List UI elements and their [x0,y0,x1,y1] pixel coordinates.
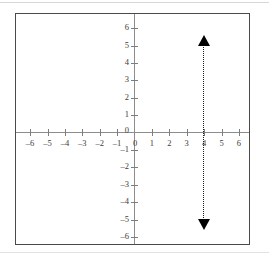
x-axis-tick [48,129,49,136]
y-axis-tick [131,167,138,168]
y-axis-tick [131,150,138,151]
x-axis-tick-label: 6 [231,139,247,148]
x-axis-tick [100,129,101,136]
x-axis-tick [169,129,170,136]
y-axis-tick-label: 3 [113,75,129,84]
y-axis-line [134,14,135,244]
y-axis-tick-label: 2 [113,93,129,102]
y-axis-tick [131,46,138,47]
y-axis-tick-label: 4 [113,58,129,67]
x-axis-tick [222,129,223,136]
x-axis-tick-label: 5 [214,139,230,148]
plotted-line-x-equals-4 [203,45,204,220]
x-axis-tick-label: 3 [179,139,195,148]
x-axis-tick [187,129,188,136]
y-axis-tick-label: –2 [113,162,129,171]
y-axis-tick [131,80,138,81]
x-axis-tick-label: –2 [92,139,108,148]
y-axis-tick-label: –5 [113,215,129,224]
x-axis-tick [82,129,83,136]
x-axis-tick-label: –4 [57,139,73,148]
x-axis-tick-label: –6 [22,139,38,148]
plot-frame-border [15,13,250,245]
arrow-up-icon [198,35,210,46]
x-axis-tick [65,129,66,136]
y-axis-tick [131,220,138,221]
x-axis-tick-label: –3 [74,139,90,148]
y-axis-tick [131,185,138,186]
x-axis-tick-label: 2 [161,139,177,148]
y-axis-tick [131,237,138,238]
arrow-down-icon [198,219,210,230]
y-axis-tick [131,63,138,64]
y-axis-tick-label: 6 [113,23,129,32]
coordinate-plane-figure: –6–5–4–3–2–1123456654321–1–2–3–4–5–6 0 0 [0,0,269,257]
x-axis-tick-label: 1 [144,139,160,148]
x-axis-tick [239,129,240,136]
origin-label-x: 0 [127,139,143,148]
y-axis-tick [131,202,138,203]
origin-label-y: 0 [113,126,129,135]
y-axis-tick [131,115,138,116]
y-axis-tick-label: –6 [113,232,129,241]
y-axis-tick [131,98,138,99]
y-axis-tick-label: –3 [113,180,129,189]
y-axis-tick-label: 5 [113,41,129,50]
y-axis-tick-label: 1 [113,110,129,119]
page-bottom-rule [0,252,269,253]
page-top-rule [0,2,269,3]
y-axis-tick [131,28,138,29]
x-axis-tick-label: –5 [40,139,56,148]
x-axis-tick [30,129,31,136]
x-axis-tick [152,129,153,136]
x-axis-line [16,132,249,133]
y-axis-tick-label: –4 [113,197,129,206]
